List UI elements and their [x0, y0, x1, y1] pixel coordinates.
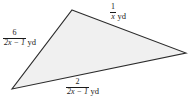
unit-bottom: yd — [90, 87, 99, 96]
fraction-top-right: 1 x — [110, 3, 116, 21]
side-label-bottom: 2 2x − 1 yd — [66, 78, 99, 96]
side-label-top-right: 1 x yd — [110, 3, 126, 21]
unit-left: yd — [27, 38, 36, 47]
fraction-left: 6 2x − 1 — [3, 29, 26, 47]
fraction-top-right-denominator: x — [110, 13, 116, 22]
unit-top-right: yd — [118, 12, 127, 21]
triangle-polygon — [12, 10, 186, 89]
fraction-top-right-numerator: 1 — [110, 3, 116, 12]
fraction-bottom: 2 2x − 1 — [66, 78, 89, 96]
fraction-bottom-denominator: 2x − 1 — [66, 88, 89, 97]
side-label-left: 6 2x − 1 yd — [3, 29, 36, 47]
fraction-bottom-numerator: 2 — [74, 78, 80, 87]
geometry-figure: 6 2x − 1 yd 1 x yd 2 2x − 1 yd — [0, 0, 191, 102]
fraction-left-numerator: 6 — [11, 29, 17, 38]
fraction-left-denominator: 2x − 1 — [3, 39, 26, 48]
